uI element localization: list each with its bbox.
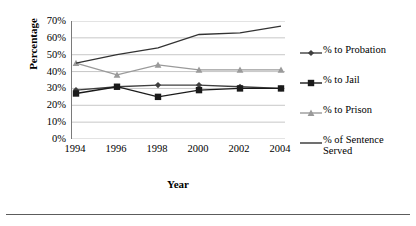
data-point-diamond bbox=[155, 82, 161, 88]
series-1 bbox=[73, 82, 284, 93]
data-point-diamond bbox=[308, 50, 314, 56]
series-line bbox=[76, 63, 281, 75]
legend-item[interactable]: % of Sentence Served bbox=[300, 134, 416, 156]
series-2 bbox=[73, 84, 284, 101]
data-point-square bbox=[114, 84, 120, 90]
x-tick-label: 1996 bbox=[96, 143, 136, 154]
plot-svg bbox=[72, 21, 285, 139]
x-tick-label: 1994 bbox=[55, 143, 95, 154]
legend-marker-line-icon bbox=[300, 135, 322, 147]
data-point-square bbox=[155, 94, 161, 100]
series-4 bbox=[76, 26, 281, 63]
legend-marker-diamond-icon bbox=[300, 45, 322, 57]
x-tick-label: 2000 bbox=[178, 143, 218, 154]
y-tick-label: 10% bbox=[30, 117, 66, 127]
legend-item[interactable]: % to Prison bbox=[300, 104, 416, 117]
legend-label: % to Probation bbox=[322, 44, 386, 55]
x-axis-title: Year bbox=[71, 178, 285, 190]
data-point-square bbox=[308, 80, 314, 86]
legend-marker-square-icon bbox=[300, 75, 322, 87]
y-tick-label: 20% bbox=[30, 100, 66, 110]
y-tick-label: 70% bbox=[30, 16, 66, 26]
y-tick-label: 40% bbox=[30, 67, 66, 77]
x-axis-tick-labels: 199419961998200020022004 bbox=[71, 143, 285, 159]
series-3 bbox=[73, 60, 285, 78]
y-tick-label: 30% bbox=[30, 83, 66, 93]
y-tick-label: 50% bbox=[30, 50, 66, 60]
footer-divider bbox=[6, 214, 410, 215]
y-tick-label: 60% bbox=[30, 33, 66, 43]
chart-legend: % to Probation% to Jail% to Prison% of S… bbox=[300, 44, 416, 173]
legend-item[interactable]: % to Jail bbox=[300, 74, 416, 87]
x-tick-label: 2004 bbox=[260, 143, 300, 154]
plot-area bbox=[71, 21, 285, 139]
data-point-square bbox=[237, 85, 243, 91]
x-tick-label: 2002 bbox=[219, 143, 259, 154]
x-tick-label: 1998 bbox=[137, 143, 177, 154]
legend-item[interactable]: % to Probation bbox=[300, 44, 416, 57]
data-point-square bbox=[278, 85, 284, 91]
data-point-square bbox=[196, 87, 202, 93]
chart-container: Percentage 70%60%50%40%30%20%10%0% 19941… bbox=[0, 0, 416, 226]
data-point-square bbox=[73, 90, 79, 96]
series-line bbox=[76, 26, 281, 63]
legend-label: % to Jail bbox=[322, 74, 360, 85]
legend-label: % to Prison bbox=[322, 104, 372, 115]
legend-marker-triangle-icon bbox=[300, 105, 322, 117]
y-axis-tick-labels: 70%60%50%40%30%20%10%0% bbox=[28, 0, 66, 226]
series-line bbox=[76, 85, 281, 90]
legend-label: % of Sentence Served bbox=[322, 134, 384, 156]
